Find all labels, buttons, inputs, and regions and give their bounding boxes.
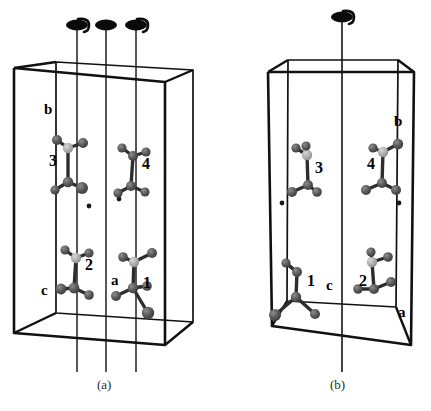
crystal-packing-figure: b c a 3 4 2 1 b c a 3 4 1 2 (a) (b) [0, 0, 431, 411]
inversion-center-dot [397, 201, 402, 206]
panel-a [14, 19, 193, 372]
molecule-label-4-panel-b: 4 [367, 155, 375, 173]
panel-a-b-axis-label: b [44, 101, 52, 118]
panel-b-c-axis-label: c [326, 277, 333, 294]
panel-a-unit-cell [14, 62, 193, 345]
screw-axis-2-1-center-symbol [331, 11, 354, 24]
molecule-label-4-panel-a: 4 [142, 155, 150, 173]
inversion-center-dot [87, 204, 92, 209]
panel-b-caption: (b) [330, 377, 345, 393]
panel-a-c-axis-label: c [41, 282, 48, 299]
molecule-label-1-panel-a: 1 [143, 274, 151, 292]
panel-a-a-axis-label: a [111, 272, 119, 289]
rotation-axis-2-middle-symbol [95, 20, 117, 31]
molecule-label-3-panel-b: 3 [315, 159, 323, 177]
molecule-label-2-panel-b: 2 [359, 272, 367, 290]
screw-axis-2-1-left-symbol [66, 19, 89, 32]
molecule-label-2-panel-a: 2 [85, 256, 93, 274]
panel-b [268, 11, 414, 372]
inversion-center-dot [280, 201, 285, 206]
figure-canvas [0, 0, 431, 411]
panel-a-caption: (a) [97, 377, 111, 393]
molecule-label-3-panel-a: 3 [49, 152, 57, 170]
panel-b-a-axis-label: a [398, 304, 406, 321]
molecule-label-1-panel-b: 1 [307, 272, 315, 290]
screw-axis-2-1-right-symbol [125, 19, 148, 32]
panel-b-b-axis-label: b [394, 113, 402, 130]
